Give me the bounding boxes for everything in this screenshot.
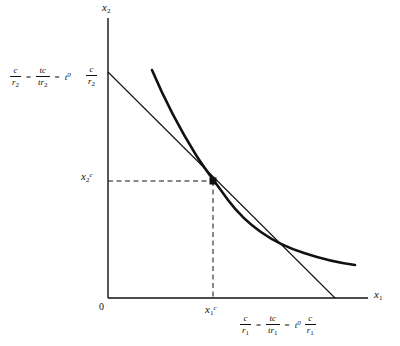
eq-bottom-equals-1: = — [255, 320, 262, 330]
eq-left-equals-1: = — [25, 72, 32, 82]
eq-left-equals-2: = — [54, 72, 61, 82]
y-intercept-fraction-label: c r2 — [86, 65, 97, 86]
isoquant-curve — [152, 70, 355, 265]
eq-bottom-term3: t0 — [295, 320, 301, 330]
x-tick-label-x1c: x1c — [205, 304, 217, 315]
eq-left-term3: t0 — [65, 72, 71, 82]
plot-svg — [0, 0, 400, 346]
origin-label: 0 — [99, 302, 104, 312]
eq-bottom-term4: c r1 — [305, 314, 316, 335]
y-axis-label: x2 — [102, 2, 110, 13]
eq-bottom-equals-2: = — [284, 320, 291, 330]
tangency-point-marker — [210, 178, 217, 185]
isocost-line — [108, 72, 335, 298]
equation-x1-axis: c r1 = tc tr1 = t0 c r1 — [240, 314, 316, 335]
equation-x2-axis: c r2 = tc tr2 = t0 — [10, 66, 71, 87]
eq-left-term2: tc tr2 — [36, 66, 50, 87]
figure-canvas: x2 x1 0 x2c x1c c r2 c r2 = tc tr2 = t0 — [0, 0, 400, 346]
intercept-fraction: c r2 — [86, 65, 97, 86]
eq-left-term1: c r2 — [10, 66, 21, 87]
x-axis-label: x1 — [374, 289, 382, 300]
eq-bottom-term2: tc tr1 — [266, 314, 280, 335]
eq-bottom-term1: c r1 — [240, 314, 251, 335]
y-tick-label-x2c: x2c — [81, 171, 93, 182]
